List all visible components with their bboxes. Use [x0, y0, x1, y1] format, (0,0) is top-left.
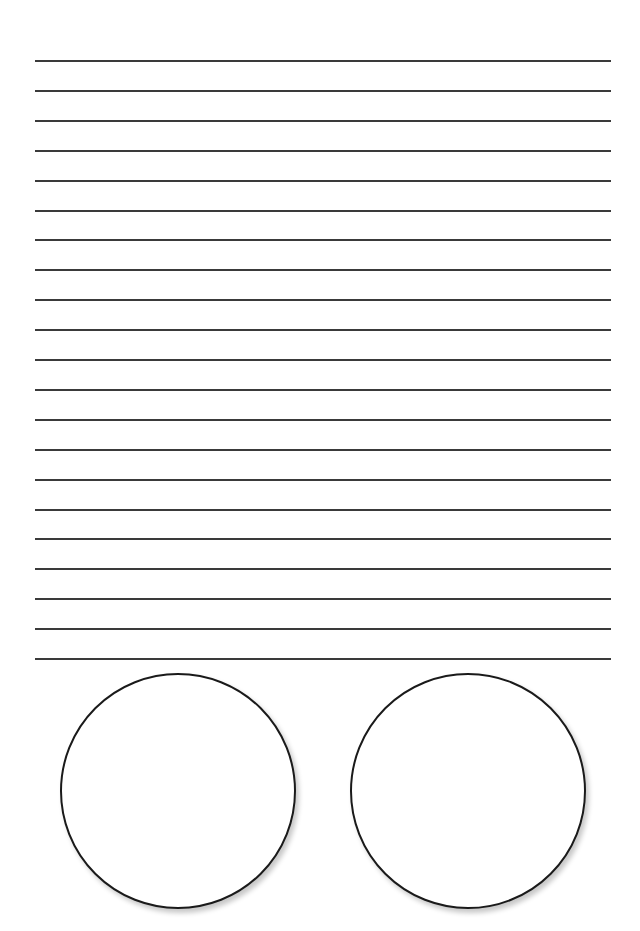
ruled-line [35, 359, 611, 361]
ruled-line [35, 449, 611, 451]
ruled-line [35, 120, 611, 122]
ruled-line [35, 389, 611, 391]
ruled-line [35, 90, 611, 92]
ruled-line [35, 239, 611, 241]
ruled-line [35, 598, 611, 600]
right-circle [350, 673, 586, 909]
ruled-line [35, 419, 611, 421]
worksheet-page [0, 0, 640, 931]
ruled-line [35, 210, 611, 212]
ruled-line [35, 658, 611, 660]
ruled-line [35, 329, 611, 331]
ruled-line [35, 479, 611, 481]
ruled-line [35, 568, 611, 570]
ruled-line [35, 180, 611, 182]
ruled-line [35, 60, 611, 62]
ruled-line [35, 299, 611, 301]
ruled-line [35, 269, 611, 271]
ruled-line [35, 628, 611, 630]
ruled-line [35, 150, 611, 152]
left-circle [60, 673, 296, 909]
ruled-line [35, 509, 611, 511]
ruled-line [35, 538, 611, 540]
